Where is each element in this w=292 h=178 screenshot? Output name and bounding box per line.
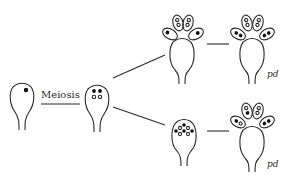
branch-line-upper <box>113 55 165 78</box>
basidium-top-1 <box>161 14 206 84</box>
basidium-meiotic <box>85 85 109 132</box>
branch-line-lower <box>113 107 165 125</box>
pd-label-top: pd <box>267 69 279 79</box>
meiosis-label: Meiosis <box>41 89 80 100</box>
basidium-bottom-1 <box>172 120 196 167</box>
basidium-diploid <box>10 83 34 130</box>
pd-label-bottom: pd <box>267 159 279 169</box>
